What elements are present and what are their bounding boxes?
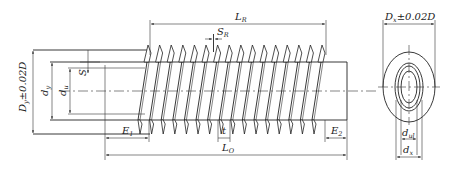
fin-top: [306, 45, 313, 62]
fins: [138, 45, 325, 134]
label-dy: dy: [39, 86, 52, 96]
fin-bottom: [300, 120, 304, 134]
fin-bottom: [196, 120, 200, 134]
fin-bottom: [150, 120, 154, 134]
label-dul: dul: [402, 127, 415, 140]
label-L0: LO: [221, 142, 235, 155]
label-E1: E1: [121, 125, 133, 138]
fin-bottom: [173, 120, 177, 134]
fin-bottom: [184, 120, 188, 134]
fin-top: [190, 45, 197, 62]
label-Dy: Dy±0.02D: [17, 62, 30, 113]
side-view: Dy±0.02D dy du S LR SR E1: [17, 11, 378, 160]
fin-top: [225, 45, 232, 62]
fin-top: [318, 45, 325, 62]
fin-top: [283, 45, 290, 62]
fin-bottom: [138, 120, 142, 134]
fin-top: [237, 45, 244, 62]
fin-bottom: [208, 120, 212, 134]
fin-top: [179, 45, 186, 62]
fin-bottom: [161, 120, 165, 134]
label-S: S: [77, 69, 88, 76]
fin-top: [202, 45, 209, 62]
fin-top: [156, 45, 163, 62]
fin-top: [295, 45, 302, 62]
label-dx: dx: [403, 144, 413, 157]
fin-top: [272, 45, 279, 62]
label-Dx: Dx±0.02D: [384, 11, 435, 24]
finned-tube-drawing: Dy±0.02D dy du S LR SR E1: [0, 0, 456, 174]
label-LR: LR: [234, 11, 247, 24]
fin-helix-edge: [268, 62, 277, 120]
end-view: Dx±0.02D dul dx: [378, 11, 440, 160]
label-E2: E2: [330, 125, 342, 138]
fin-bottom: [277, 120, 281, 134]
fin-top: [167, 45, 174, 62]
fin-helix: [231, 62, 240, 120]
fin-bottom: [289, 120, 293, 134]
fin-top: [248, 45, 255, 62]
fin-bottom: [254, 120, 258, 134]
label-SR: SR: [217, 26, 229, 39]
fin-helix: [196, 62, 205, 120]
label-t: t: [222, 125, 227, 136]
fin-bottom: [266, 120, 270, 134]
fin-bottom: [231, 120, 235, 134]
fin-bottom: [312, 120, 316, 134]
fin-top: [260, 45, 267, 62]
fin-bottom: [242, 120, 246, 134]
fin-top: [214, 45, 221, 62]
